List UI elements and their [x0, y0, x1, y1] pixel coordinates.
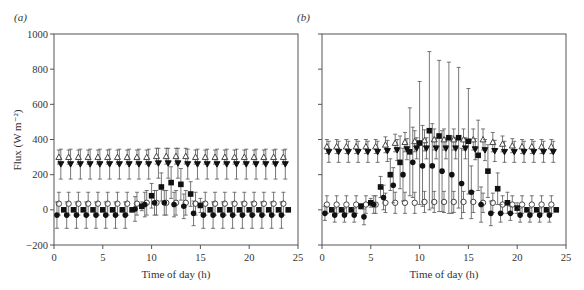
- data-point: [549, 202, 554, 207]
- data-point: [198, 203, 204, 209]
- data-point: [191, 211, 197, 217]
- panel-b: 0510152025: [318, 34, 571, 263]
- data-point: [256, 207, 262, 213]
- data-point: [547, 212, 553, 218]
- x-tick-label: 25: [561, 252, 572, 263]
- data-point: [240, 212, 246, 218]
- data-point: [469, 189, 475, 195]
- data-point: [539, 202, 544, 207]
- y-tick-label: 800: [32, 64, 48, 75]
- x-tick-label: 15: [463, 252, 474, 263]
- data-point: [466, 138, 472, 144]
- data-point: [390, 182, 396, 188]
- data-point: [407, 149, 413, 155]
- panel-b-x-axis-title: Time of day (h): [410, 268, 479, 281]
- x-tick-label: 5: [368, 252, 373, 263]
- data-point: [188, 191, 194, 197]
- data-point: [149, 193, 155, 199]
- data-point: [478, 202, 484, 208]
- data-point: [54, 212, 60, 218]
- data-point: [122, 212, 128, 218]
- data-point: [498, 211, 504, 217]
- data-point: [201, 212, 207, 218]
- data-point: [103, 212, 109, 218]
- data-point: [93, 212, 99, 218]
- data-point: [334, 202, 339, 207]
- data-point: [249, 212, 255, 218]
- data-point: [342, 212, 348, 218]
- data-point: [439, 168, 445, 174]
- data-point: [276, 207, 282, 213]
- data-point: [142, 202, 148, 208]
- data-point: [459, 181, 465, 187]
- data-point: [74, 212, 80, 218]
- data-point: [420, 163, 426, 169]
- data-point: [397, 160, 403, 166]
- data-point: [449, 172, 455, 178]
- data-point: [246, 207, 252, 213]
- data-point: [475, 153, 481, 159]
- data-point: [485, 168, 491, 174]
- panel-a: 0510152025−20002004006008001000: [26, 29, 303, 264]
- data-point: [527, 212, 533, 218]
- data-point: [417, 140, 423, 146]
- data-point: [505, 200, 511, 206]
- data-point: [71, 207, 77, 213]
- data-point: [351, 212, 357, 218]
- panel-a-y-axis-title: Flux (W m⁻²): [11, 109, 24, 170]
- x-tick-label: 25: [293, 252, 304, 263]
- data-point: [210, 212, 216, 218]
- data-point: [553, 207, 559, 213]
- data-point: [269, 212, 275, 218]
- data-point: [279, 212, 285, 218]
- x-tick-label: 10: [414, 252, 425, 263]
- panel-a-x-axis-title: Time of day (h): [142, 268, 211, 281]
- data-point: [120, 207, 126, 213]
- data-point: [488, 211, 494, 217]
- data-point: [429, 163, 435, 169]
- y-tick-label: 1000: [27, 29, 48, 40]
- data-point: [381, 195, 387, 201]
- data-point: [227, 207, 233, 213]
- x-tick-label: 0: [319, 252, 324, 263]
- data-point: [61, 207, 67, 213]
- data-point: [161, 200, 167, 206]
- data-point: [322, 211, 328, 217]
- data-point: [517, 212, 523, 218]
- panel-a-label: (a): [14, 11, 27, 24]
- y-tick-label: 600: [32, 99, 48, 110]
- data-point: [100, 207, 106, 213]
- data-point: [363, 202, 368, 207]
- data-point: [353, 202, 358, 207]
- data-point: [230, 212, 236, 218]
- data-point: [388, 172, 394, 178]
- data-point: [344, 202, 349, 207]
- data-point: [110, 207, 116, 213]
- data-point: [132, 206, 138, 212]
- data-point: [361, 214, 367, 220]
- data-point: [537, 212, 543, 218]
- panel-b-label: (b): [297, 11, 310, 24]
- y-tick-label: 0: [43, 204, 48, 215]
- data-point: [427, 128, 433, 134]
- data-point: [332, 212, 338, 218]
- data-point: [83, 212, 89, 218]
- data-point: [178, 182, 184, 188]
- x-tick-label: 20: [244, 252, 255, 263]
- data-point: [152, 200, 158, 206]
- data-point: [266, 207, 272, 213]
- data-point: [237, 207, 243, 213]
- data-point: [181, 204, 187, 210]
- data-point: [529, 202, 534, 207]
- x-tick-label: 10: [146, 252, 157, 263]
- data-point: [456, 135, 462, 141]
- y-tick-label: −200: [26, 240, 48, 251]
- x-tick-label: 20: [512, 252, 523, 263]
- data-point: [113, 212, 119, 218]
- data-point: [168, 180, 174, 186]
- data-point: [207, 207, 213, 213]
- x-tick-label: 5: [100, 252, 105, 263]
- y-tick-label: 200: [32, 169, 48, 180]
- y-tick-label: 400: [32, 134, 48, 145]
- data-point: [259, 212, 265, 218]
